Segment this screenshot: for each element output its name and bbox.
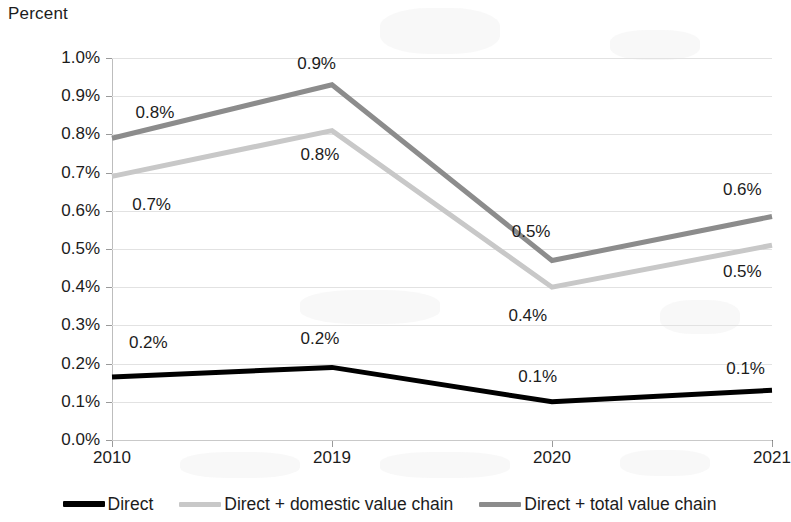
scan-artifact bbox=[180, 452, 300, 478]
x-axis-tick-label: 2020 bbox=[533, 448, 571, 468]
scan-artifact bbox=[610, 30, 700, 60]
chart-legend: DirectDirect + domestic value chainDirec… bbox=[0, 486, 779, 522]
legend-label: Direct bbox=[108, 494, 154, 515]
data-label: 0.1% bbox=[518, 367, 557, 387]
legend-item[interactable]: Direct + domestic value chain bbox=[179, 494, 453, 515]
y-axis-tick-label: 0.8% bbox=[28, 124, 100, 144]
data-label: 0.5% bbox=[723, 262, 762, 282]
data-label: 0.8% bbox=[136, 103, 175, 123]
scan-artifact bbox=[620, 450, 710, 476]
x-axis-tick-label: 2010 bbox=[93, 448, 131, 468]
series-lines bbox=[112, 58, 772, 440]
data-label: 0.8% bbox=[301, 145, 340, 165]
x-axis-tick-label: 2019 bbox=[313, 448, 351, 468]
data-label: 0.2% bbox=[301, 329, 340, 349]
data-label: 0.7% bbox=[132, 195, 171, 215]
scan-artifact bbox=[380, 8, 500, 54]
x-axis-tick-label: 2021 bbox=[753, 448, 791, 468]
y-axis-tick-label: 0.5% bbox=[28, 239, 100, 259]
y-axis-tick-label: 0.9% bbox=[28, 86, 100, 106]
data-label: 0.1% bbox=[726, 359, 765, 379]
legend-item[interactable]: Direct + total value chain bbox=[479, 494, 716, 515]
x-axis-tick bbox=[332, 441, 333, 447]
legend-label: Direct + domestic value chain bbox=[224, 494, 453, 515]
y-axis-tick-label: 0.0% bbox=[28, 430, 100, 450]
y-axis-tick-label: 0.2% bbox=[28, 354, 100, 374]
y-axis-labels: 0.0%0.1%0.2%0.3%0.4%0.5%0.6%0.7%0.8%0.9%… bbox=[24, 0, 100, 522]
legend-label: Direct + total value chain bbox=[524, 494, 716, 515]
x-axis-tick bbox=[772, 441, 773, 447]
series-line bbox=[112, 367, 772, 401]
y-axis-tick-label: 1.0% bbox=[28, 48, 100, 68]
legend-swatch-icon bbox=[63, 501, 105, 507]
data-label: 0.6% bbox=[723, 180, 762, 200]
x-axis-tick bbox=[552, 441, 553, 447]
gridline bbox=[112, 440, 772, 441]
data-label: 0.9% bbox=[297, 54, 336, 74]
y-axis-tick-label: 0.7% bbox=[28, 163, 100, 183]
y-axis-tick-label: 0.6% bbox=[28, 201, 100, 221]
legend-swatch-icon bbox=[479, 502, 521, 507]
y-axis-tick-label: 0.4% bbox=[28, 277, 100, 297]
plot-area bbox=[112, 58, 772, 440]
y-axis-tick-label: 0.3% bbox=[28, 315, 100, 335]
legend-item[interactable]: Direct bbox=[63, 494, 154, 515]
data-label: 0.4% bbox=[508, 306, 547, 326]
data-label: 0.5% bbox=[512, 222, 551, 242]
legend-swatch-icon bbox=[179, 502, 221, 507]
x-axis-tick bbox=[112, 441, 113, 447]
y-axis-tick-label: 0.1% bbox=[28, 392, 100, 412]
scan-artifact bbox=[380, 452, 510, 478]
series-line bbox=[112, 131, 772, 288]
series-line bbox=[112, 85, 772, 261]
data-label: 0.2% bbox=[129, 333, 168, 353]
